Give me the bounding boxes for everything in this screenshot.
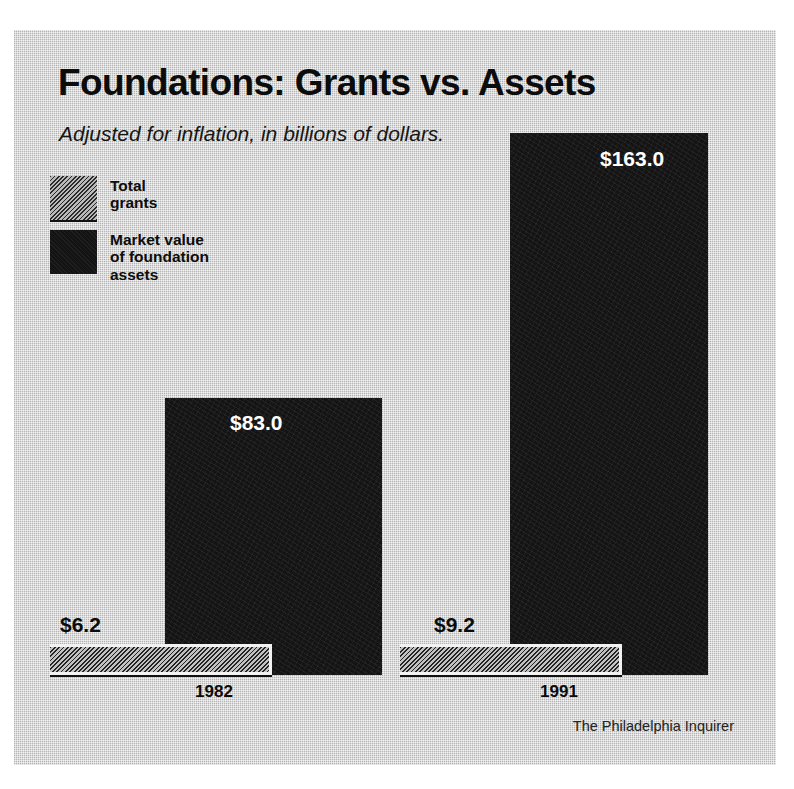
chart-credit: The Philadelphia Inquirer	[573, 718, 734, 734]
axis-label-1982: 1982	[150, 682, 278, 702]
bar-assets-1982	[165, 398, 382, 675]
bar-value-grants-1982: $6.2	[60, 613, 101, 637]
plot-area: $83.0 $6.2 1982 $163.0 $9.2 1991	[14, 30, 776, 765]
axis-label-1991: 1991	[495, 682, 623, 702]
bar-grants-1982	[50, 644, 272, 675]
bar-assets-1991	[510, 133, 708, 675]
bar-grants-1991	[400, 644, 622, 675]
bar-value-assets-1991: $163.0	[600, 147, 664, 171]
figure-panel: Foundations: Grants vs. Assets Adjusted …	[14, 30, 776, 765]
bar-value-grants-1991: $9.2	[434, 613, 475, 637]
bar-value-assets-1982: $83.0	[230, 411, 283, 435]
chart-page: { "chart_data": { "type": "bar", "title"…	[0, 0, 794, 789]
